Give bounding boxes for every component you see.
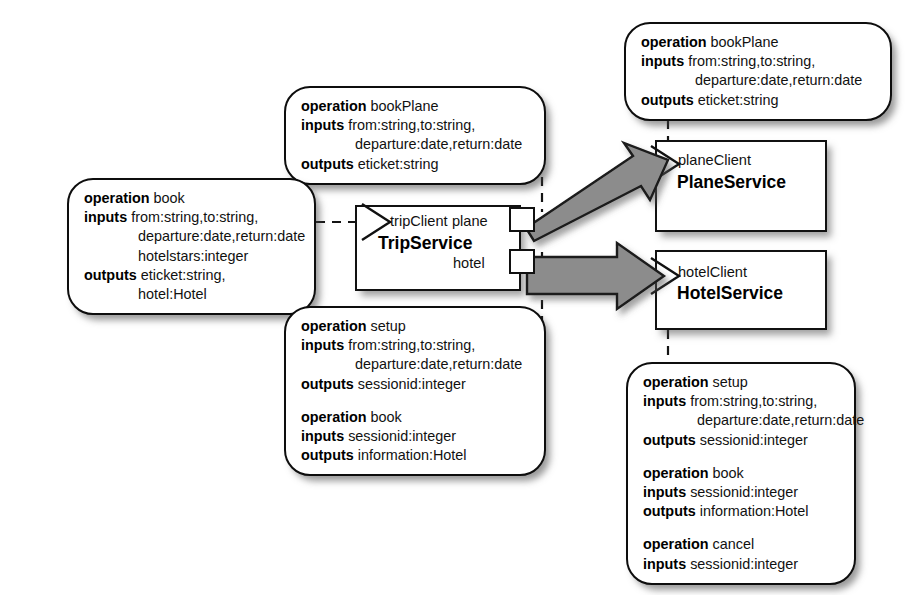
- interface-label-tripclient: tripClient: [390, 213, 448, 229]
- component-title-plane-service: PlaneService: [677, 172, 786, 193]
- interface-label-planeclient: planeClient: [678, 152, 751, 168]
- port-hotel[interactable]: [509, 249, 535, 274]
- component-title-hotel-service: HotelService: [677, 283, 783, 304]
- component-title-trip-service: TripService: [378, 233, 472, 254]
- connector-plane[interactable]: [526, 143, 668, 241]
- connector-hotel[interactable]: [527, 243, 664, 309]
- block-arrow-hotel[interactable]: [527, 243, 664, 309]
- interface-label-hotelclient: hotelClient: [678, 264, 747, 280]
- port-plane[interactable]: [509, 207, 535, 232]
- port-label-plane: plane: [452, 213, 488, 229]
- diagram-canvas: operation bookPlane inputs from:string,t…: [0, 0, 918, 595]
- port-label-hotel: hotel: [453, 255, 485, 271]
- block-arrow-plane[interactable]: [526, 143, 668, 241]
